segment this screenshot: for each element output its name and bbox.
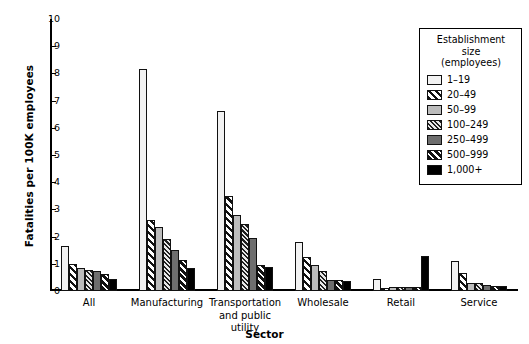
bar bbox=[257, 265, 265, 291]
bar bbox=[483, 285, 491, 291]
y-tick-mark bbox=[50, 182, 56, 183]
legend-swatch bbox=[427, 105, 442, 115]
bar-group bbox=[139, 19, 195, 291]
y-tick-mark bbox=[50, 46, 56, 47]
legend-item: 1–19 bbox=[427, 73, 515, 87]
bar bbox=[343, 281, 351, 291]
x-tick-label: Service bbox=[424, 297, 529, 310]
bar bbox=[249, 238, 257, 291]
bar bbox=[421, 256, 429, 291]
bar bbox=[459, 273, 467, 291]
bar-group bbox=[295, 19, 351, 291]
bar bbox=[187, 268, 195, 291]
bar bbox=[451, 261, 459, 291]
bar bbox=[311, 265, 319, 291]
y-tick-mark bbox=[50, 73, 56, 74]
legend-item: 50–99 bbox=[427, 103, 515, 117]
legend-title-line-1: Establishment bbox=[427, 34, 515, 46]
y-tick-mark bbox=[50, 209, 56, 210]
bar bbox=[241, 224, 249, 291]
y-tick-label: 10 bbox=[16, 13, 60, 25]
legend: Establishment size (employees) 1–1920–49… bbox=[419, 28, 522, 185]
bar bbox=[93, 271, 101, 291]
bar bbox=[101, 274, 109, 291]
legend-swatch bbox=[427, 90, 442, 100]
bar-group bbox=[217, 19, 273, 291]
y-tick-label: 0 bbox=[16, 285, 60, 297]
x-tick-label-line: Service bbox=[424, 297, 529, 310]
legend-item-label: 1,000+ bbox=[447, 164, 483, 175]
bar bbox=[303, 257, 311, 291]
bar bbox=[85, 270, 93, 291]
legend-swatch bbox=[427, 135, 442, 145]
bar bbox=[139, 69, 147, 291]
bar bbox=[61, 246, 69, 291]
legend-item: 20–49 bbox=[427, 88, 515, 102]
y-tick-mark bbox=[50, 155, 56, 156]
legend-title-line-3: (employees) bbox=[427, 57, 515, 69]
legend-item-label: 500–999 bbox=[447, 149, 488, 160]
legend-item-label: 1–19 bbox=[447, 74, 470, 85]
bar bbox=[389, 287, 397, 291]
legend-item-label: 20–49 bbox=[447, 89, 476, 100]
legend-swatch bbox=[427, 165, 442, 175]
bar bbox=[265, 267, 273, 291]
legend-title-line-2: size bbox=[427, 46, 515, 58]
legend-title: Establishment size (employees) bbox=[427, 34, 515, 69]
bar bbox=[413, 287, 421, 291]
bar bbox=[225, 196, 233, 291]
legend-item: 100–249 bbox=[427, 118, 515, 132]
legend-swatch bbox=[427, 120, 442, 130]
bar bbox=[405, 287, 413, 291]
bar bbox=[69, 264, 77, 291]
bar bbox=[499, 286, 507, 291]
bar bbox=[335, 280, 343, 291]
legend-swatch bbox=[427, 75, 442, 85]
x-tick-label-line: and public bbox=[190, 310, 300, 323]
bar bbox=[397, 287, 405, 291]
bar-group bbox=[61, 19, 117, 291]
bar bbox=[491, 286, 499, 291]
legend-item-label: 250–499 bbox=[447, 134, 488, 145]
bar bbox=[77, 268, 85, 291]
legend-item: 1,000+ bbox=[427, 163, 515, 177]
bar bbox=[295, 242, 303, 291]
y-tick-mark bbox=[50, 101, 56, 102]
legend-item: 500–999 bbox=[427, 148, 515, 162]
y-tick-mark bbox=[50, 264, 56, 265]
y-tick-mark bbox=[50, 128, 56, 129]
bar bbox=[381, 288, 389, 291]
bar bbox=[467, 283, 475, 291]
legend-item: 250–499 bbox=[427, 133, 515, 147]
y-tick-mark bbox=[50, 237, 56, 238]
bar bbox=[109, 279, 117, 291]
bar-chart: Fatalities per 100K employees 0123456789… bbox=[0, 0, 529, 344]
bar bbox=[163, 239, 171, 291]
bar bbox=[171, 250, 179, 291]
bar bbox=[327, 280, 335, 291]
legend-item-label: 50–99 bbox=[447, 104, 476, 115]
bar bbox=[319, 271, 327, 291]
bar bbox=[217, 111, 225, 291]
legend-swatch bbox=[427, 150, 442, 160]
bar bbox=[147, 220, 155, 291]
x-axis-title: Sector bbox=[0, 328, 529, 340]
bar bbox=[155, 227, 163, 291]
bar bbox=[179, 260, 187, 291]
bar bbox=[233, 215, 241, 291]
legend-items: 1–1920–4950–99100–249250–499500–9991,000… bbox=[427, 73, 515, 177]
legend-item-label: 100–249 bbox=[447, 119, 488, 130]
bar bbox=[373, 279, 381, 291]
bar bbox=[475, 283, 483, 291]
